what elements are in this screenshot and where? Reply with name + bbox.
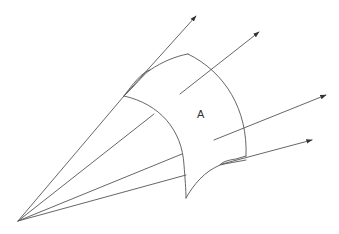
surface-bottom-edge xyxy=(186,156,246,198)
cone-ray-3 xyxy=(18,154,182,221)
normal-arrow-2 xyxy=(180,32,259,94)
normal-arrow-1 xyxy=(124,16,196,96)
normal-arrow-4 xyxy=(222,140,312,164)
surface-left-edge xyxy=(124,96,186,198)
surface-right-edge xyxy=(188,54,246,156)
cone-ray-2 xyxy=(18,114,154,221)
cone-ray-4 xyxy=(18,175,186,221)
cone-ray-1 xyxy=(18,96,124,221)
normal-arrow-3 xyxy=(214,95,326,140)
surface-label: A xyxy=(197,108,205,120)
normal-arrows xyxy=(124,16,326,164)
solid-angle-diagram: A xyxy=(0,0,339,234)
